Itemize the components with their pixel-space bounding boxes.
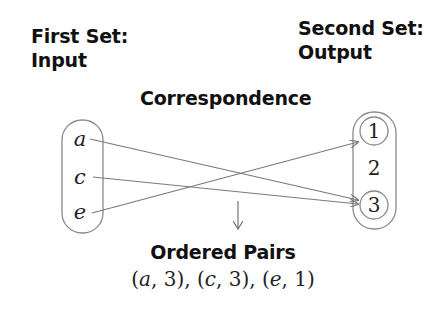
ordered-pairs-list: (a, 3), (c, 3), (e, 1) bbox=[0, 267, 446, 291]
element-c: c bbox=[74, 165, 86, 189]
pair-3: (e, 1) bbox=[262, 267, 315, 291]
element-3: 3 bbox=[368, 193, 381, 217]
element-2: 2 bbox=[368, 156, 381, 180]
element-1: 1 bbox=[368, 119, 381, 143]
pair-1: (a, 3) bbox=[131, 267, 184, 291]
element-a: a bbox=[74, 127, 87, 151]
element-e: e bbox=[74, 200, 86, 224]
correspondence-diagram: First Set: Input Second Set: Output Corr… bbox=[0, 0, 446, 314]
ordered-pairs-label: Ordered Pairs bbox=[0, 240, 446, 264]
arrow-e-to-1 bbox=[92, 142, 358, 213]
pair-2: (c, 3) bbox=[197, 267, 249, 291]
